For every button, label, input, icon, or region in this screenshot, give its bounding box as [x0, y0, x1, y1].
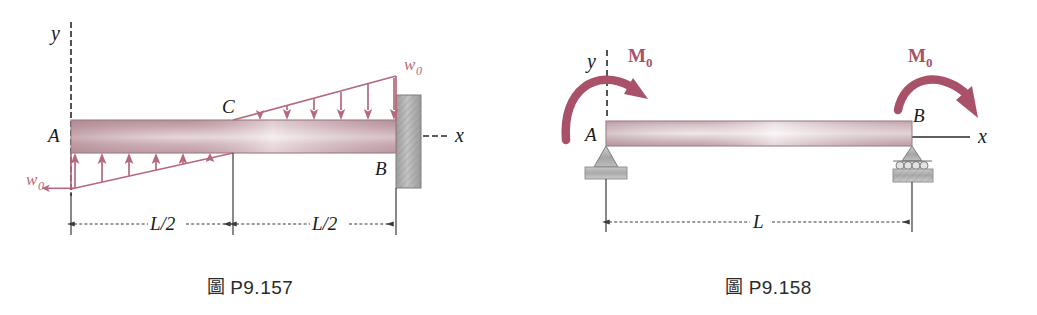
figure-p9-158-caption: 圖P9.158 — [500, 273, 1037, 299]
moment-label-right: M — [908, 45, 926, 66]
figure-p9-157-caption-text: P9.157 — [230, 277, 293, 298]
x-axis-label: x — [454, 124, 464, 146]
load-label-right: w — [404, 55, 416, 74]
point-label-a: A — [46, 125, 60, 146]
pin-support-a — [585, 146, 627, 179]
fixed-wall-support — [396, 95, 421, 188]
dimension-span-total-label: L — [752, 211, 764, 232]
moment-label-left-subscript: 0 — [646, 55, 653, 70]
figure-p9-157: y x — [0, 0, 500, 315]
triangular-load-downward-right: w 0 — [233, 55, 422, 120]
load-label-left: w — [26, 170, 38, 189]
figure-p9-158: y x — [500, 0, 1037, 315]
x-axis-label: x — [977, 125, 987, 147]
figure-p9-157-drawing: y x — [0, 0, 500, 315]
figure-p9-158-caption-text: P9.158 — [749, 277, 812, 298]
beam-member — [71, 120, 396, 153]
dimension-extension-lines — [71, 153, 396, 235]
dimension-span-right-label: L/2 — [311, 213, 338, 234]
figure-p9-157-caption: 圖P9.157 — [0, 273, 500, 299]
dimension-span-left-label: L/2 — [149, 213, 176, 234]
moment-label-left: M — [628, 45, 646, 66]
figure-mark-icon: 圖 — [725, 276, 744, 297]
point-label-a: A — [583, 124, 597, 145]
point-label-b: B — [913, 105, 925, 126]
point-label-b: B — [375, 158, 387, 179]
load-label-left-subscript: 0 — [38, 179, 44, 193]
roller-support-b — [893, 146, 933, 182]
load-arrowheads-down — [256, 109, 398, 120]
dimension-span-total: L — [609, 211, 909, 232]
applied-moment-right: M 0 — [898, 45, 978, 118]
dimension-span-left: L/2 — [74, 213, 230, 234]
figure-p9-158-drawing: y x — [500, 0, 1037, 315]
figure-page: y x — [0, 0, 1037, 315]
roller-circles — [896, 162, 928, 170]
dimension-span-right: L/2 — [236, 213, 393, 234]
figure-mark-icon: 圖 — [207, 276, 226, 297]
y-axis-label: y — [585, 50, 596, 73]
point-label-c: C — [222, 96, 235, 117]
beam-member — [606, 121, 912, 146]
moment-label-right-subscript: 0 — [926, 55, 933, 70]
load-label-right-subscript: 0 — [416, 64, 422, 78]
triangular-load-upward-left: w 0 — [26, 153, 233, 193]
y-axis-label: y — [49, 22, 60, 45]
